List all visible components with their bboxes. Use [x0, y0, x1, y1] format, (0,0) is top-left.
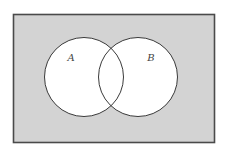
set-b-label: B — [146, 52, 154, 63]
venn-diagram: A B — [0, 0, 227, 149]
set-a-label: A — [66, 52, 74, 63]
